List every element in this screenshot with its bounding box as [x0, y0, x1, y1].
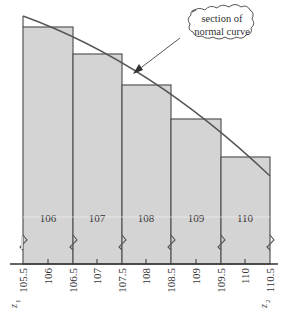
histogram-diagram: 106 107 108 109 110 105.5 106 106.5 107 … [0, 0, 288, 327]
callout-cloud: section of normal curve [188, 5, 254, 40]
callout-arrow [133, 38, 180, 74]
bar-108 [122, 85, 171, 264]
tick-labels: 105.5 106 106.5 107 107.5 108 108.5 109 … [17, 268, 276, 293]
svg-text:z: z [8, 304, 19, 309]
callout-line2: normal curve [194, 26, 250, 37]
tick-label: 105.5 [17, 268, 29, 293]
tick-label: 110 [239, 268, 251, 285]
svg-text:z: z [258, 304, 269, 309]
tick-label: 108.5 [165, 268, 177, 293]
z2-label: z 2 [258, 299, 272, 309]
bar-label-110: 110 [237, 212, 254, 224]
bar-106 [23, 27, 73, 264]
z1-label: z 1 [8, 299, 22, 309]
callout-line1: section of [201, 13, 243, 24]
histogram-bars [23, 27, 270, 264]
tick-label: 106.5 [67, 268, 79, 293]
tick-label: 108 [140, 268, 152, 285]
tick-label: 107.5 [116, 268, 128, 293]
bar-107 [73, 54, 122, 264]
svg-text:1: 1 [14, 299, 22, 303]
bar-label-108: 108 [138, 212, 155, 224]
tick-label: 109 [190, 268, 202, 285]
tick-label: 110.5 [264, 268, 276, 293]
bar-110 [221, 157, 270, 264]
tick-label: 107 [91, 268, 103, 285]
svg-text:2: 2 [264, 299, 272, 303]
bar-label-107: 107 [89, 212, 106, 224]
tick-label: 109.5 [215, 268, 227, 293]
bar-109 [171, 119, 221, 264]
bar-label-109: 109 [188, 212, 205, 224]
tick-label: 106 [42, 268, 54, 285]
bar-label-106: 106 [40, 212, 57, 224]
